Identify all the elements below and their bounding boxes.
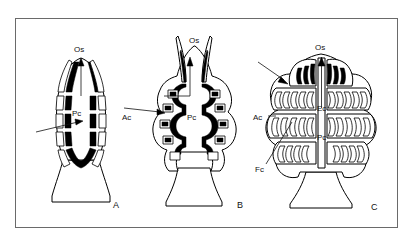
panel-a-wall-right-2 — [90, 96, 96, 110]
panel-a-wall-left-2 — [65, 96, 72, 110]
panel-a-plate-left-2 — [56, 96, 64, 110]
panel-c-label-os: Os — [315, 43, 325, 52]
panel-b-ac-left-5 — [170, 152, 180, 160]
panel-a-label-pc: Pc — [72, 109, 81, 118]
panel-c-fold-ur-3 — [327, 64, 332, 84]
panel-b-ac-nub-right-2 — [217, 106, 223, 110]
panel-c-fold-row-left-1 — [271, 88, 316, 110]
panel-b-ac-right-5 — [208, 152, 218, 160]
panel-a-plate-right-4 — [98, 132, 106, 146]
panel-c-label-ac: Ac — [253, 113, 262, 122]
panel-c-fold-cluster-upper-left — [289, 59, 316, 86]
panel-c-fold-cluster-upper-right — [327, 59, 353, 86]
panel-c-base — [290, 172, 352, 208]
panel-c-label-ec: Ec — [317, 104, 326, 113]
panel-b-ac-nub-right-1 — [212, 92, 218, 96]
panel-b-ac-nub-left-1 — [170, 92, 176, 96]
panel-c: Os Ac Ec Pc Fc — [253, 43, 376, 208]
panel-b-label-pc: Pc — [187, 113, 196, 122]
panel-letter-b: B — [237, 200, 243, 210]
figure-root: Os Pc — [0, 0, 415, 244]
panel-a: Os Pc — [36, 45, 110, 202]
panel-b-label-os: Os — [189, 36, 199, 45]
panel-a-label-os: Os — [74, 45, 84, 54]
panel-b-ac-nub-left-3 — [162, 122, 168, 126]
panel-b-ac-nub-right-3 — [220, 122, 226, 126]
panel-b: Os Ac Pc — [122, 36, 236, 206]
panel-a-plate-right-3 — [99, 114, 106, 128]
panel-c-fold-row-left-3 — [273, 142, 316, 164]
figure-illustration: Os Pc — [0, 0, 415, 244]
panel-a-wall-left-4 — [65, 132, 72, 146]
panel-b-base — [166, 168, 222, 206]
panel-b-ac-nub-left-4 — [165, 138, 171, 142]
panel-b-label-ac: Ac — [122, 113, 131, 122]
panel-a-wall-right-4 — [90, 132, 96, 146]
panel-c-external-leader — [258, 62, 284, 80]
panel-c-label-fc: Fc — [255, 165, 264, 174]
panel-b-ac-nub-right-4 — [217, 138, 223, 142]
panel-a-plate-right-2 — [98, 96, 106, 110]
panel-c-fold-row-right-1 — [327, 88, 371, 110]
panel-letter-a: A — [113, 200, 119, 210]
panel-a-plate-left-4 — [56, 132, 64, 146]
panel-c-fold-row-left-2 — [267, 114, 316, 138]
panel-c-fold-ul-3 — [310, 64, 315, 84]
panel-letter-c: C — [371, 202, 378, 212]
panel-a-wall-right-3 — [90, 114, 96, 128]
panel-c-label-pc: Pc — [317, 133, 326, 142]
panel-a-wall-left-3 — [65, 114, 71, 128]
panel-c-fold-row-right-3 — [327, 142, 369, 164]
panel-b-ac-nub-left-2 — [165, 106, 171, 110]
panel-c-fold-row-right-2 — [327, 114, 375, 138]
panel-b-ac-leader — [124, 108, 160, 112]
